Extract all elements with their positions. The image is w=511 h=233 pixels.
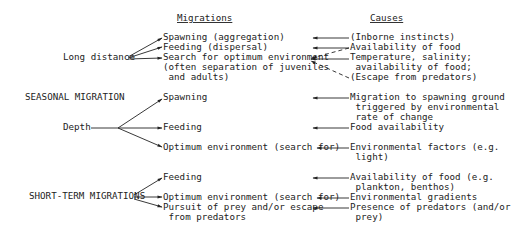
migration-short-pursuit-line2: from predators [163,211,246,222]
migrations-header: Migrations [177,12,232,23]
causes-header: Causes [370,12,403,23]
migration-depth-feeding: Feeding [163,121,202,132]
migration-depth-optimum: Optimum environment (search for) [163,141,340,152]
short-term-arrows [134,178,162,207]
short-term-migrations-label: SHORT-TERM MIGRATIONS [29,190,145,201]
cause-environmental-factors-line2: light) [350,151,389,162]
cause-presence-of-predators-line2: prey) [350,211,383,222]
migration-search-optimum-line3: and adults) [163,71,229,82]
depth-arrows [91,99,162,147]
migration-diagram: Migrations Causes Long distance Spawning… [0,0,511,233]
depth-label: Depth [63,121,91,132]
migration-depth-spawning: Spawning [163,91,207,102]
cause-food-availability: Food availability [350,121,445,132]
migration-short-feeding: Feeding [163,171,202,182]
seasonal-migration-label: SEASONAL MIGRATION [25,91,125,102]
long-distance-label: Long distance [63,51,135,62]
cause-escape-from-predators: (Escape from predators) [350,71,477,82]
